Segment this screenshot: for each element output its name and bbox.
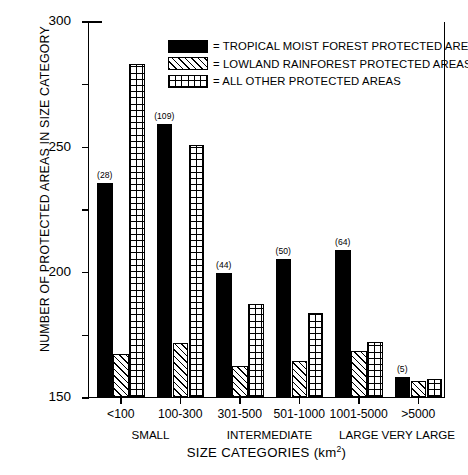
x-axis-tick-label: >5000: [401, 408, 435, 420]
legend-item: = LOWLAND RAINFOREST PROTECTED AREAS: [168, 56, 468, 72]
bar: [427, 379, 443, 397]
bar: [173, 343, 189, 397]
x-axis-group-label: LARGE: [339, 429, 378, 441]
legend-item: = TROPICAL MOIST FOREST PROTECTED AREAS: [168, 38, 468, 54]
x-axis-tick-label: 1001-5000: [330, 408, 388, 420]
x-axis-tick: [180, 397, 182, 404]
bar: [232, 366, 248, 397]
bar-annotation: (50): [276, 247, 291, 256]
x-axis-tick: [358, 397, 360, 404]
x-axis-group-label: INTERMEDIATE: [227, 429, 312, 441]
y-axis-tick: 300: [82, 21, 89, 23]
x-axis-group-label: VERY LARGE: [381, 429, 455, 441]
bar-annotation: (5): [397, 365, 408, 374]
y-axis-tick-label: 300: [48, 15, 71, 29]
x-axis-tick-label: <100: [107, 408, 134, 420]
chart-legend: = TROPICAL MOIST FOREST PROTECTED AREAS=…: [168, 38, 468, 91]
legend-item: = ALL OTHER PROTECTED AREAS: [168, 73, 468, 89]
legend-label: = TROPICAL MOIST FOREST PROTECTED AREAS: [213, 40, 468, 52]
bar: [248, 304, 264, 397]
bar: [113, 354, 129, 397]
bar: [292, 361, 308, 397]
legend-label: = LOWLAND RAINFOREST PROTECTED AREAS: [213, 58, 468, 70]
legend-swatch: [168, 40, 208, 53]
y-axis-tick: 50: [82, 335, 89, 337]
bar-annotation: (28): [97, 171, 112, 180]
bar: [276, 259, 292, 397]
x-axis-group-label: SMALL: [131, 429, 169, 441]
x-axis-tick-label: 100-300: [158, 408, 203, 420]
x-axis-tick-label: 501-1000: [273, 408, 325, 420]
x-axis-tick: [239, 397, 241, 404]
y-axis-tick-label: 250: [48, 140, 71, 154]
bar: [216, 273, 232, 397]
y-axis-tick: 200: [82, 147, 89, 149]
bar: [157, 124, 173, 397]
y-axis-tick: 150: [82, 209, 89, 211]
bar-annotation: (44): [216, 261, 231, 270]
bar-chart-figure: NUMBER OF PROTECTED AREAS IN SIZE CATEGO…: [0, 0, 468, 475]
bar: [335, 250, 351, 397]
y-axis-tick: 250: [82, 84, 89, 86]
bar: [189, 145, 205, 397]
bar: [97, 183, 113, 397]
x-axis-tick-label: 301-500: [217, 408, 262, 420]
x-axis-title: SIZE CATEGORIES (km2): [88, 444, 445, 460]
y-axis-title: NUMBER OF PROTECTED AREAS IN SIZE CATEGO…: [38, 1, 52, 377]
bar: [395, 377, 411, 397]
legend-swatch: [168, 57, 208, 70]
y-axis-tick: 100: [82, 272, 89, 274]
bar: [308, 313, 324, 397]
x-axis-tick: [418, 397, 420, 404]
bar: [351, 351, 367, 397]
legend-swatch: [168, 75, 208, 88]
bar: [129, 64, 145, 397]
x-axis-title-tail: ): [342, 445, 347, 460]
bar-annotation: (109): [154, 112, 174, 121]
y-axis-tick-label: 200: [48, 265, 71, 279]
bar: [367, 342, 383, 397]
y-axis-tick-label: 150: [48, 391, 71, 405]
y-axis-tick: 0: [82, 397, 89, 399]
x-axis-title-base: SIZE CATEGORIES (km: [187, 445, 337, 460]
bar: [411, 381, 427, 397]
x-axis-tick: [120, 397, 122, 404]
x-axis-tick: [299, 397, 301, 404]
legend-label: = ALL OTHER PROTECTED AREAS: [213, 75, 401, 87]
bar-annotation: (64): [335, 238, 350, 247]
